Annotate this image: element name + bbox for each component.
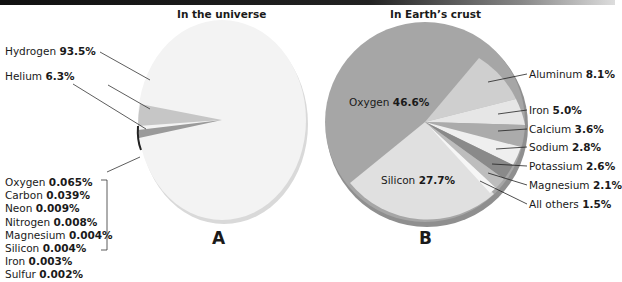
label-neon: Neon 0.009% — [5, 202, 113, 215]
label-magnesium: Magnesium 0.004% — [5, 229, 113, 242]
panel-label-a: A — [212, 228, 225, 248]
label-oxygen: Oxygen 0.065% — [5, 176, 113, 189]
label-crust-magnesium: Magnesium 2.1% — [529, 179, 622, 191]
pie-b — [325, 22, 528, 227]
label-crust-iron: Iron 5.0% — [529, 104, 582, 116]
label-crust-sodium: Sodium 2.8% — [529, 141, 601, 153]
label-silicon: Silicon 0.004% — [5, 242, 113, 255]
label-crust-potassium: Potassium 2.6% — [529, 160, 615, 172]
label-crust-oxygen: Oxygen 46.6% — [349, 96, 429, 108]
label-crust-calcium: Calcium 3.6% — [529, 123, 604, 135]
panel-label-b: B — [419, 228, 432, 248]
label-crust-aluminum: Aluminum 8.1% — [529, 68, 615, 80]
trace-elements-list: Oxygen 0.065% Carbon 0.039% Neon 0.009% … — [5, 176, 113, 282]
label-iron: Iron 0.003% — [5, 255, 113, 268]
pie-a — [138, 20, 308, 224]
label-crust-others: All others 1.5% — [529, 198, 611, 210]
label-crust-silicon: Silicon 27.7% — [381, 174, 455, 186]
label-helium: Helium 6.3% — [5, 70, 75, 82]
label-sulfur: Sulfur 0.002% — [5, 268, 113, 281]
label-carbon: Carbon 0.039% — [5, 189, 113, 202]
label-nitrogen: Nitrogen 0.008% — [5, 216, 113, 229]
label-hydrogen: Hydrogen 93.5% — [5, 45, 96, 57]
